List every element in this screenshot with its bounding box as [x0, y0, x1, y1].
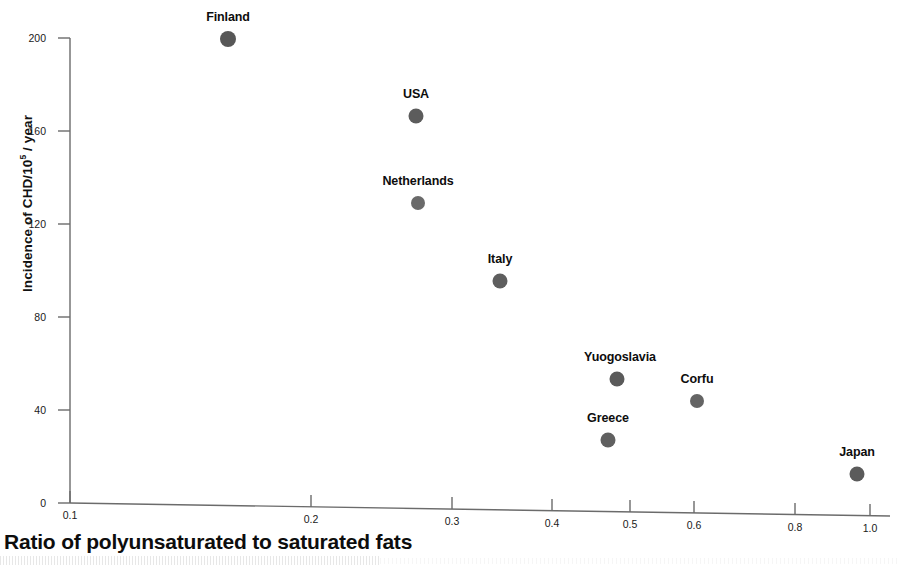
y-tick-marks [58, 38, 70, 503]
chart-figure: 0 40 80 120 160 200 0.1 0.2 0.3 0.4 0.5 … [0, 0, 899, 565]
x-axis-title: Ratio of polyunsaturated to saturated fa… [4, 530, 412, 554]
scan-artifact-band [0, 556, 380, 565]
axes-lines [0, 0, 899, 565]
point-label-finland: Finland [206, 10, 250, 24]
x-tick-label-0-4: 0.4 [545, 517, 560, 529]
y-axis-title-prefix: Incidence of CHD/10 [20, 160, 35, 292]
point-label-greece: Greece [587, 411, 629, 425]
point-label-italy: Italy [488, 252, 513, 266]
x-tick-label-1-0: 1.0 [863, 522, 878, 534]
y-axis-title: Incidence of CHD/105 / year [20, 84, 35, 324]
y-axis-title-suffix: / year [20, 115, 35, 155]
x-tick-label-0-2: 0.2 [304, 513, 319, 525]
point-label-corfu: Corfu [681, 372, 714, 386]
y-tick-label-40: 40 [14, 404, 46, 416]
x-tick-label-0-3: 0.3 [445, 515, 460, 527]
point-label-japan: Japan [839, 445, 875, 459]
x-tick-label-0-8: 0.8 [788, 521, 803, 533]
data-point-corfu[interactable] [690, 394, 704, 408]
point-label-yuogoslavia: Yuogoslavia [584, 350, 656, 364]
data-point-italy[interactable] [493, 274, 508, 289]
data-point-netherlands[interactable] [411, 196, 425, 210]
plot-area: 0 40 80 120 160 200 0.1 0.2 0.3 0.4 0.5 … [0, 0, 899, 565]
y-tick-label-0: 0 [14, 497, 46, 509]
data-point-yuogoslavia[interactable] [610, 372, 625, 387]
data-point-greece[interactable] [601, 433, 616, 448]
x-tick-label-0-6: 0.6 [687, 519, 702, 531]
point-label-netherlands: Netherlands [382, 174, 453, 188]
data-point-japan[interactable] [850, 467, 865, 482]
point-label-usa: USA [403, 87, 429, 101]
y-axis-title-superscript: 5 [18, 155, 28, 160]
data-point-usa[interactable] [409, 109, 424, 124]
y-tick-label-200: 200 [14, 32, 46, 44]
data-point-finland[interactable] [220, 31, 236, 47]
x-axis-spine [70, 503, 890, 516]
scan-artifact-band-right [380, 558, 899, 564]
x-tick-marks [70, 491, 870, 516]
x-tick-label-0-1: 0.1 [63, 509, 78, 521]
x-tick-label-0-5: 0.5 [623, 518, 638, 530]
